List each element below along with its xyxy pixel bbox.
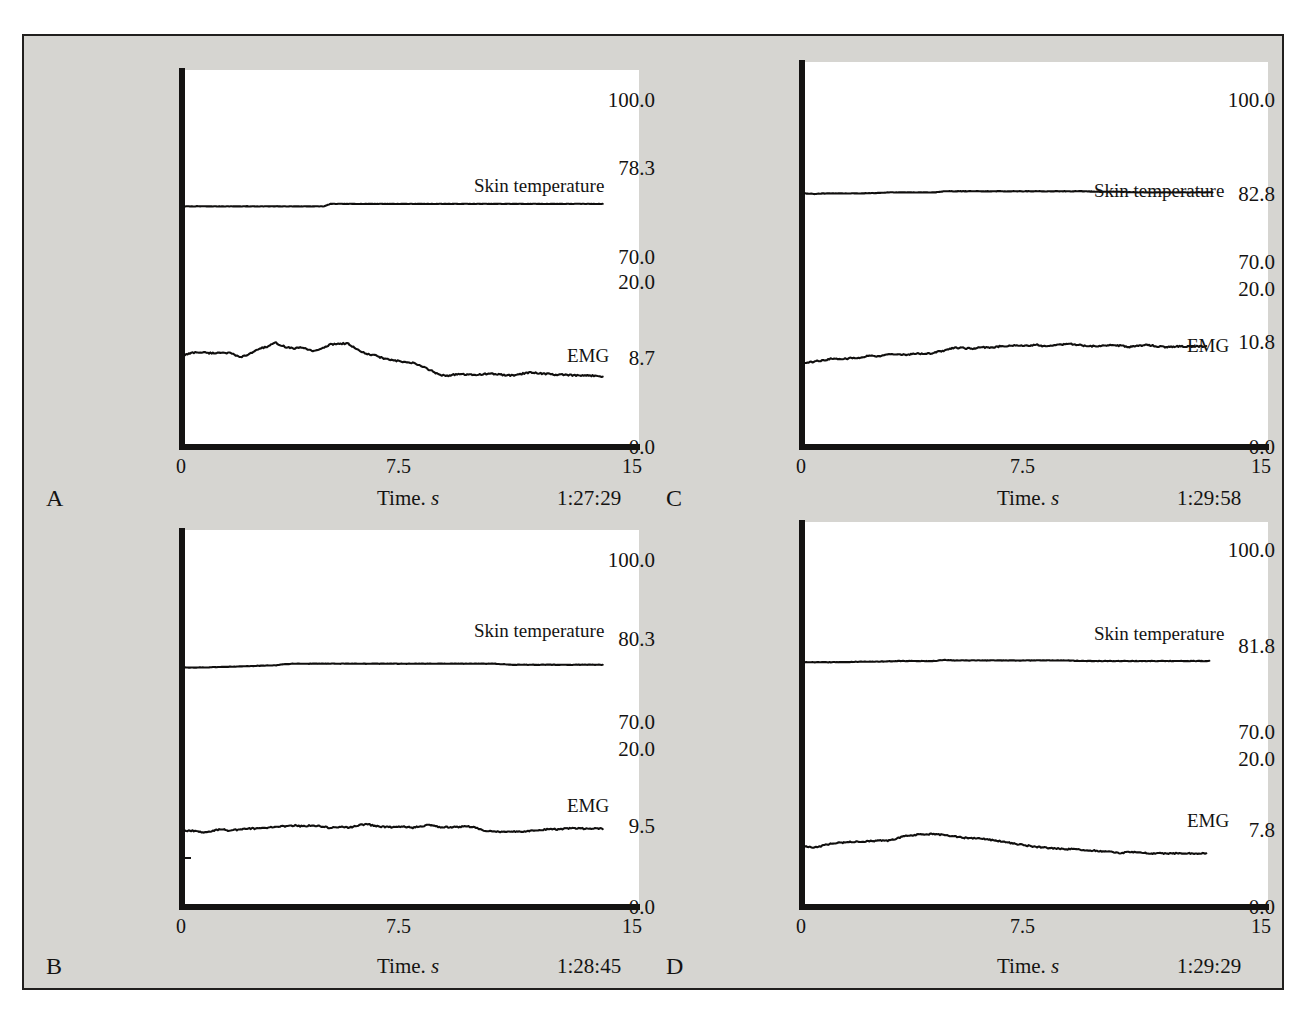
panel-c-emg-trace [805,344,1206,363]
panel-a-temperature-trace [185,204,603,207]
panel-d-xtick-1: 7.5 [1010,916,1035,936]
panel-b-axis-title-unit: s [431,954,439,978]
panel-a-emg-trace [185,342,603,377]
panel-b: 100.0 80.3 70.0 20.0 9.5 0.0 Skin temper… [24,496,655,974]
panel-a-traces [24,36,655,514]
panel-c-xtick-1: 7.5 [1010,456,1035,476]
panel-c: 100.0 82.8 70.0 20.0 10.8 0.0 Skin tempe… [644,36,1275,514]
panel-b-xtick-1: 7.5 [386,916,411,936]
panel-a: 100.0 78.3 70.0 20.0 8.7 0.0 Skin temper… [24,36,655,514]
panel-b-xtick-0: 0 [176,916,186,936]
panel-d-timestamp: 1:29:29 [1177,956,1241,977]
figure-frame: 100.0 78.3 70.0 20.0 8.7 0.0 Skin temper… [22,34,1284,990]
panel-b-temperature-trace [185,663,603,667]
panel-d-axis-title-unit: s [1051,954,1059,978]
panel-a-xtick-0: 0 [176,456,186,476]
panel-d-letter: D [666,954,683,978]
panel-d-axis-title: Time. s [997,956,1059,977]
panel-b-emg-label: EMG [567,796,609,815]
panel-c-xtick-2: 15 [1251,456,1271,476]
panel-d-traces [644,496,1275,974]
panel-d-emg-trace [805,834,1206,854]
panel-d-temperature-label: Skin temperature [1094,624,1224,643]
panel-c-xtick-0: 0 [796,456,806,476]
panel-c-traces [644,36,1275,514]
panel-a-xtick-1: 7.5 [386,456,411,476]
panel-a-xtick-2: 15 [622,456,642,476]
panel-b-xtick-2: 15 [622,916,642,936]
panel-b-axis-title: Time. s [377,956,439,977]
panel-d-xtick-0: 0 [796,916,806,936]
panel-c-emg-label: EMG [1187,336,1229,355]
panel-b-traces [24,496,655,974]
panel-b-timestamp: 1:28:45 [557,956,621,977]
panel-b-axis-title-text: Time. [377,954,426,978]
panel-d: 100.0 81.8 70.0 20.0 7.8 0.0 Skin temper… [644,496,1275,974]
panel-a-emg-label: EMG [567,346,609,365]
panel-b-temperature-label: Skin temperature [474,621,604,640]
panel-d-axis-title-text: Time. [997,954,1046,978]
panel-b-letter: B [46,954,62,978]
panel-d-temperature-trace [805,660,1209,663]
panel-d-emg-label: EMG [1187,811,1229,830]
figure-root: 100.0 78.3 70.0 20.0 8.7 0.0 Skin temper… [0,0,1302,1012]
panel-d-xtick-2: 15 [1251,916,1271,936]
panel-a-temperature-label: Skin temperature [474,176,604,195]
panel-c-temperature-label: Skin temperature [1094,181,1224,200]
panel-b-emg-trace [185,824,603,833]
